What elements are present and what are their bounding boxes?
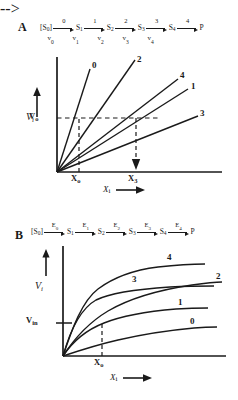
panel-a-flux-row: v0 v1 v2 v3 v4 (38, 35, 163, 44)
scheme-node: P (200, 24, 204, 33)
panel-b-plot: Vi Vin Xo 4 3 2 1 0 (0, 243, 238, 365)
scheme-node: S2 (107, 24, 114, 33)
panel-a-line-0 (57, 69, 90, 172)
scheme-arrow-label: 3 (146, 18, 168, 25)
arrow-head-icon (123, 232, 127, 236)
scheme-enzyme-label: E0 (44, 222, 66, 230)
scheme-node: [S0] (40, 24, 52, 33)
scheme-arrow: 3 (146, 19, 168, 32)
scheme-node: S4 (160, 228, 167, 237)
scheme-arrow: E1 (75, 223, 97, 236)
scheme-node: [S0] (31, 228, 43, 237)
scheme-arrow: E0 (44, 223, 66, 236)
panel-b-xtick-x0: Xo (94, 358, 103, 367)
flux-label: v0 (38, 35, 63, 44)
scheme-node: S4 (169, 24, 176, 33)
panel-b-svg (0, 243, 238, 365)
panel-a-curve-label-4: 4 (180, 71, 185, 80)
panel-b-curve-2 (63, 282, 222, 356)
scheme-arrow: 2 (115, 19, 137, 32)
panel-b-ytick-vin: Vin (26, 316, 38, 325)
arrow-head-icon (154, 232, 158, 236)
panel-b-curve-label-3: 3 (132, 275, 137, 284)
panel-a-letter: A (18, 20, 27, 35)
panel-a-xtick-x3: X3 (128, 174, 137, 183)
scheme-enzyme-label: E3 (137, 222, 159, 230)
panel-a-curve-label-1: 1 (191, 82, 196, 91)
panel-a-scheme: [S0] 0 S1 1 S2 2 S3 3 (40, 19, 204, 32)
panel-a-line-4 (57, 79, 178, 172)
arrow-head-icon (92, 232, 96, 236)
panel-b-y-axis-label: Vi (35, 281, 43, 291)
arrow-head-icon (163, 28, 167, 32)
arrow-head-icon (101, 28, 105, 32)
scheme-enzyme-label: E1 (75, 222, 97, 230)
scheme-node: S3 (138, 24, 145, 33)
scheme-arrow-label: 4 (177, 18, 199, 25)
arrow-head-icon (132, 28, 136, 32)
scheme-enzyme-label: E2 (106, 222, 128, 230)
panel-b: B [S0] E0 S1 E1 S2 E2 S3 E3 (0, 205, 238, 400)
scheme-arrow: 4 (177, 19, 199, 32)
panel-a-plot: Vi Vo Xo X3 0 2 4 1 3 (0, 55, 238, 180)
scheme-node: S3 (129, 228, 136, 237)
panel-a-xtick-x0: Xo (71, 174, 80, 183)
scheme-arrow-label: 2 (115, 18, 137, 25)
panel-b-curve-0 (63, 327, 217, 356)
arrow-head-icon (185, 232, 189, 236)
arrow-head-icon (194, 28, 198, 32)
panel-a-line-3 (57, 116, 198, 172)
panel-b-curve-label-1: 1 (178, 298, 183, 307)
panel-a-curve-label-3: 3 (200, 109, 205, 118)
flux-label: v4 (138, 35, 163, 44)
panel-a: A [S0] 0 S1 1 S2 2 S3 3 (0, 0, 238, 205)
panel-a-curve-label-2: 2 (137, 55, 142, 64)
arrow-head-icon (70, 28, 74, 32)
scheme-enzyme-label: E4 (168, 222, 190, 230)
panel-a-x-axis-title: Xi (103, 185, 146, 194)
panel-a-line-2 (57, 60, 135, 172)
panel-a-ytick-v0: Vo (29, 112, 38, 121)
panel-a-x3-dashed-line (132, 118, 140, 170)
panel-b-y-arrow-icon (42, 249, 49, 276)
panel-b-scheme: [S0] E0 S1 E1 S2 E2 S3 E3 (31, 223, 195, 236)
arrow-head-icon (61, 232, 65, 236)
scheme-arrow-label: 1 (84, 18, 106, 25)
flux-label: v3 (113, 35, 138, 44)
panel-a-series-group (57, 60, 198, 172)
flux-label: v1 (63, 35, 88, 44)
scheme-node: S2 (98, 228, 105, 237)
x-axis-arrow-icon (116, 186, 146, 194)
scheme-arrow: 1 (84, 19, 106, 32)
panel-a-curve-label-0: 0 (92, 61, 97, 70)
panel-b-curve-label-4: 4 (167, 253, 172, 262)
scheme-node: P (191, 228, 195, 237)
scheme-arrow: E2 (106, 223, 128, 236)
panel-b-series-group (63, 264, 222, 356)
scheme-arrow: E4 (168, 223, 190, 236)
scheme-node: S1 (76, 24, 83, 33)
panel-b-letter: B (15, 228, 24, 243)
figure-root: A [S0] 0 S1 1 S2 2 S3 3 (0, 0, 238, 400)
scheme-arrow-label: 0 (53, 18, 75, 25)
x-axis-arrow-icon (123, 374, 153, 382)
panel-b-x-axis-title: Xi (110, 373, 153, 382)
scheme-arrow: 0 (53, 19, 75, 32)
panel-b-curve-label-2: 2 (216, 272, 221, 281)
flux-label: v2 (88, 35, 113, 44)
scheme-arrow: E3 (137, 223, 159, 236)
panel-a-line-1 (57, 89, 188, 172)
scheme-node: S1 (67, 228, 74, 237)
panel-b-curve-label-0: 0 (190, 317, 195, 326)
